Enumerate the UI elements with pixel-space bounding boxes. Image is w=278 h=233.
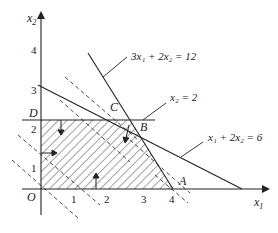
- tick-y-3: 3: [31, 84, 37, 96]
- tick-y-2: 2: [31, 123, 37, 135]
- point-D-label: D: [28, 106, 38, 120]
- leader-eq1: [103, 57, 127, 77]
- eq2-label: x₂ = 2: [169, 91, 198, 103]
- point-C-label: C: [110, 100, 119, 114]
- origin-label: O: [27, 190, 36, 204]
- tick-y-4: 4: [31, 44, 37, 56]
- tick-x-4: 4: [169, 193, 175, 205]
- tick-x-3: 3: [141, 193, 147, 205]
- tick-x-2: 2: [104, 193, 110, 205]
- lp-diagram: x2 x1 O 1 2 3 4 1 2 3 4 A B C D 3x₁ + 2x…: [0, 0, 278, 233]
- tick-x-1: 1: [71, 193, 77, 205]
- point-A-label: A: [178, 174, 187, 188]
- x-axis-label: x1: [253, 195, 263, 211]
- point-B-label: B: [140, 120, 148, 134]
- eq1-label: 3x₁ + 2x₂ = 12: [130, 50, 197, 62]
- tick-y-1: 1: [31, 162, 37, 174]
- leader-eq2: [143, 103, 166, 120]
- eq3-label: x₁ + 2x₂ = 6: [207, 131, 263, 143]
- leader-eq3: [181, 142, 203, 157]
- y-axis-label: x2: [26, 11, 36, 27]
